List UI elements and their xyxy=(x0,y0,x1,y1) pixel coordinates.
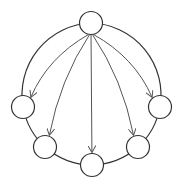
arrow-edges xyxy=(31,35,152,153)
arrow-top-to-lower-left xyxy=(49,35,89,136)
arrow-top-to-right xyxy=(94,35,153,98)
arrow-top-to-bottom xyxy=(91,35,92,153)
node-lower-right xyxy=(127,136,150,159)
node-lower-left xyxy=(34,136,57,159)
node-right xyxy=(149,96,172,119)
node-top xyxy=(80,12,103,35)
arrow-top-to-left xyxy=(31,35,89,98)
arrow-top-to-lower-right xyxy=(92,35,133,136)
graph-diagram xyxy=(0,0,181,187)
node-bottom xyxy=(81,154,104,177)
node-left xyxy=(12,96,35,119)
